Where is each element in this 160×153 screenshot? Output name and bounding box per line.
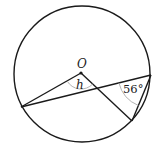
segment-o-c: [81, 73, 132, 121]
angle-label-h: h: [76, 78, 84, 92]
angle-label-56: 56°: [123, 82, 143, 96]
geometry-diagram: O h 56°: [0, 0, 160, 153]
center-label: O: [77, 57, 87, 71]
center-point: [79, 71, 82, 74]
segment-a-o: [21, 73, 81, 107]
